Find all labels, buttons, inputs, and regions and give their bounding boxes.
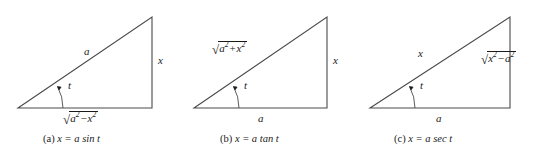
triangle-b-outline xyxy=(194,17,327,108)
angle-arc-a xyxy=(58,87,64,109)
caption-b-letter: (b) xyxy=(220,133,232,144)
hypotenuse-label-c: x xyxy=(418,48,423,59)
caption-a: (a) x = a sin t xyxy=(43,134,100,145)
base-label-b: a xyxy=(258,113,264,124)
vertical-label-b: x xyxy=(333,55,338,66)
caption-a-letter: (a) xyxy=(43,133,55,144)
radicand: x2−a2 xyxy=(487,51,516,64)
triangle-figure-row: a x t √a2−x2 (a) x = a sin t √a2+x2 x t … xyxy=(0,0,555,152)
caption-c-letter: (c) xyxy=(394,133,406,144)
angle-arc-c xyxy=(410,87,416,109)
caption-a-equation: x = a sin t xyxy=(57,133,100,144)
angle-arc-b xyxy=(234,87,240,109)
radicand-operator: + xyxy=(228,42,236,54)
hypotenuse-label-b: √a2+x2 xyxy=(212,42,247,56)
exponent: 2 xyxy=(93,110,97,119)
radicand-operator: − xyxy=(497,52,505,64)
triangle-panel-a: a x t √a2−x2 (a) x = a sin t xyxy=(0,0,185,152)
caption-c: (c) x = a sec t xyxy=(394,134,452,145)
triangle-a-drawing xyxy=(0,0,185,152)
triangle-c-drawing xyxy=(362,0,555,152)
exponent: 2 xyxy=(242,40,246,49)
vertical-label-c: √x2−a2 xyxy=(481,52,516,66)
triangle-b-drawing xyxy=(182,0,362,152)
radical-b-hypotenuse: √a2+x2 xyxy=(212,42,247,56)
radicand: a2−x2 xyxy=(69,111,98,124)
angle-label-a: t xyxy=(68,80,71,91)
vertical-label-a: x xyxy=(158,55,163,66)
exponent: 2 xyxy=(511,50,515,59)
triangle-panel-b: √a2+x2 x t a (b) x = a tan t xyxy=(182,0,362,152)
triangle-panel-c: x √x2−a2 t a (c) x = a sec t xyxy=(362,0,555,152)
angle-label-c: t xyxy=(420,80,423,91)
triangle-a-outline xyxy=(18,17,152,108)
radical-a-base: √a2−x2 xyxy=(63,112,98,126)
angle-arrowhead-b xyxy=(234,87,238,90)
caption-b: (b) x = a tan t xyxy=(220,134,279,145)
angle-label-b: t xyxy=(244,80,247,91)
hypotenuse-label-a: a xyxy=(84,46,90,57)
radicand-operator: − xyxy=(79,112,87,124)
radicand: a2+x2 xyxy=(218,41,247,54)
angle-arrowhead-a xyxy=(58,87,62,90)
radical-c-vertical: √x2−a2 xyxy=(481,52,516,66)
base-label-a: √a2−x2 xyxy=(63,112,98,126)
base-label-c: a xyxy=(436,113,442,124)
angle-arrowhead-c xyxy=(410,87,414,90)
caption-b-equation: x = a tan t xyxy=(235,133,279,144)
caption-c-equation: x = a sec t xyxy=(408,133,452,144)
